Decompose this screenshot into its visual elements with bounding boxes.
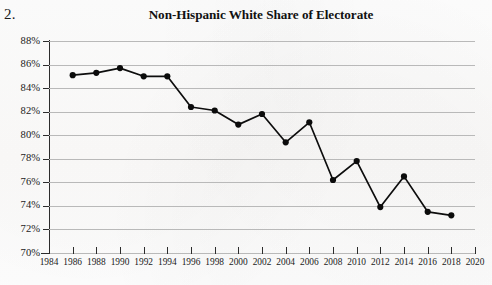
gridline	[49, 206, 475, 207]
y-axis-tick	[43, 135, 49, 136]
gridline	[49, 182, 475, 183]
x-axis-tick	[167, 247, 168, 254]
x-axis-tick	[309, 247, 310, 254]
y-axis-tick-label: 76%	[0, 177, 40, 188]
y-axis-tick-label: 72%	[0, 224, 40, 235]
gridline	[49, 135, 475, 136]
x-axis-tick	[475, 247, 476, 254]
y-axis-tick-label: 80%	[0, 130, 40, 141]
x-axis-tick	[238, 247, 239, 254]
x-axis-tick	[333, 247, 334, 254]
x-axis-tick	[191, 247, 192, 254]
y-axis-tick	[43, 41, 49, 42]
x-axis-tick-label: 2020	[458, 258, 492, 267]
y-axis-line	[49, 40, 50, 254]
gridline	[49, 88, 475, 89]
y-axis-tick-label: 86%	[0, 59, 40, 70]
gridline	[49, 65, 475, 66]
y-axis-tick-label: 74%	[0, 200, 40, 211]
y-axis-tick-label: 88%	[0, 36, 40, 47]
x-axis-tick	[428, 247, 429, 254]
y-axis-tick	[43, 229, 49, 230]
x-axis-tick	[357, 247, 358, 254]
chart-title: Non-Hispanic White Share of Electorate	[0, 7, 492, 23]
x-axis-tick	[451, 247, 452, 254]
y-axis-tick	[43, 206, 49, 207]
x-axis-tick	[262, 247, 263, 254]
x-axis-tick	[96, 247, 97, 254]
x-axis-tick	[144, 247, 145, 254]
y-axis-tick-label: 70%	[0, 248, 40, 259]
y-axis-tick	[43, 88, 49, 89]
gridline	[49, 229, 475, 230]
x-axis-tick	[404, 247, 405, 254]
y-axis-tick-label: 78%	[0, 153, 40, 164]
x-axis-tick	[120, 247, 121, 254]
x-axis-tick	[380, 247, 381, 254]
plot-area	[49, 41, 475, 253]
x-axis-tick	[286, 247, 287, 254]
y-axis-tick	[43, 112, 49, 113]
y-axis-tick	[43, 182, 49, 183]
x-axis-tick	[73, 247, 74, 254]
x-axis-tick	[49, 247, 50, 254]
y-axis-tick-label: 84%	[0, 83, 40, 94]
x-axis-tick	[215, 247, 216, 254]
gridline	[49, 41, 475, 42]
y-axis-tick	[43, 159, 49, 160]
gridline	[49, 159, 475, 160]
gridline	[49, 112, 475, 113]
y-axis-tick-label: 82%	[0, 106, 40, 117]
y-axis-tick	[43, 65, 49, 66]
